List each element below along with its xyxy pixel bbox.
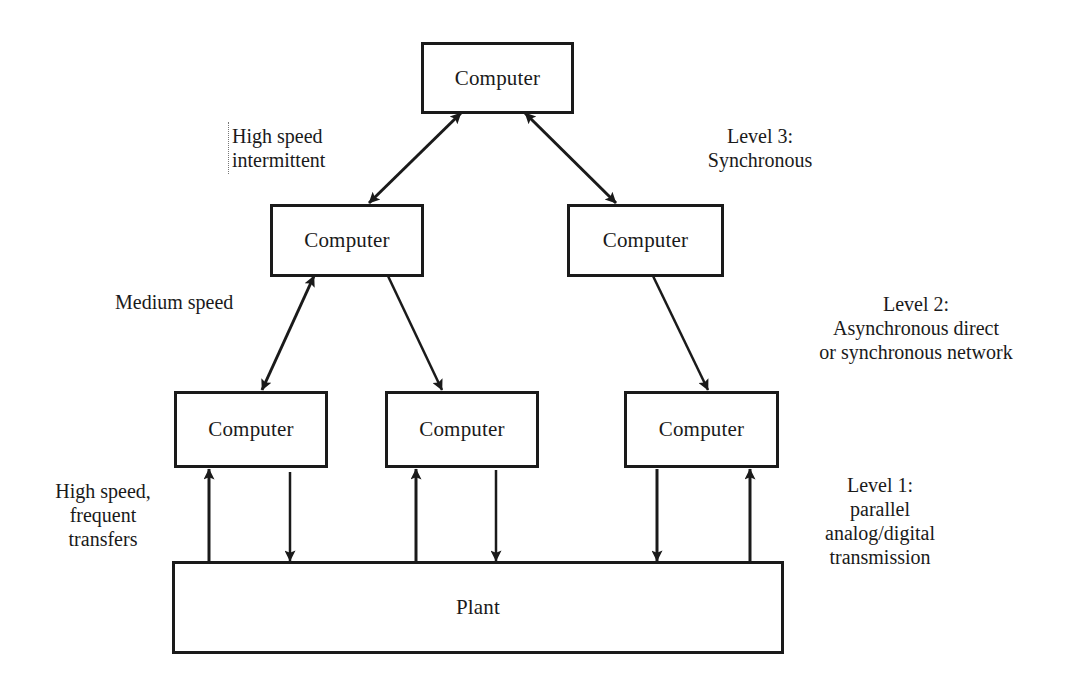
computer-node-top: Computer — [421, 42, 574, 114]
computer-node-l1-mid: Computer — [385, 391, 539, 468]
computer-node-l1-left: Computer — [174, 391, 328, 468]
computer-node-l1-right: Computer — [624, 391, 779, 468]
computer-node-l2-right: Computer — [567, 204, 724, 277]
annotation-margin-mark — [228, 122, 229, 174]
arrow-l2-left-to-l1-mid — [388, 276, 442, 390]
arrow-l2-left-to-l1-left — [262, 276, 314, 390]
node-label: Computer — [304, 228, 390, 253]
arrow-l2-right-to-l1-right — [653, 276, 708, 390]
annotation-high-speed-intermittent: High speed intermittent — [232, 124, 325, 172]
node-label: Computer — [659, 417, 745, 442]
computer-node-l2-left: Computer — [270, 204, 424, 277]
node-label: Computer — [208, 417, 294, 442]
annotation-level-2: Level 2: Asynchronous direct or synchron… — [770, 292, 1062, 364]
plant-node: Plant — [172, 561, 784, 654]
node-label: Computer — [419, 417, 505, 442]
annotation-level-3: Level 3: Synchronous — [680, 124, 840, 172]
plant-label: Plant — [456, 595, 500, 620]
hierarchical-control-diagram: Computer Computer Computer Computer Comp… — [0, 0, 1073, 681]
node-label: Computer — [455, 66, 541, 91]
annotation-level-1: Level 1: parallel analog/digital transmi… — [800, 473, 960, 569]
annotation-high-speed-frequent: High speed, frequent transfers — [28, 479, 178, 551]
node-label: Computer — [603, 228, 689, 253]
annotation-medium-speed: Medium speed — [115, 290, 233, 314]
arrow-top-to-l2-right — [525, 113, 616, 203]
arrow-top-to-l2-left — [369, 113, 461, 203]
